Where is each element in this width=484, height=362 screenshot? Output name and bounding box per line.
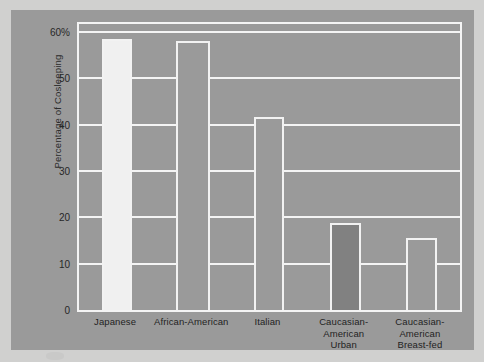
x-axis-label-line: Caucasian- (382, 316, 458, 328)
x-axis-label-line: Japanese (77, 316, 153, 328)
bar-4[interactable] (330, 223, 361, 310)
x-axis-label-line: Caucasian- (306, 316, 382, 328)
scanned-figure-page: Percentage of Cosleeping 0102030405060% … (0, 0, 484, 362)
x-axis-label-2: African-American (153, 316, 229, 328)
y-tick-label: 50 (59, 73, 70, 84)
x-axis-label-4: Caucasian-AmericanUrban (306, 316, 382, 351)
plot-top-border (77, 22, 462, 24)
x-axis-label-line: Italian (229, 316, 305, 328)
y-tick-label: 30 (59, 166, 70, 177)
x-axis-line (77, 310, 462, 312)
scan-artifact (46, 352, 64, 360)
x-axis-label-5: Caucasian-AmericanBreast-fed (382, 316, 458, 351)
y-tick-label: 0 (64, 305, 70, 316)
y-tick-label: 10 (59, 258, 70, 269)
bar-2[interactable] (176, 41, 210, 310)
x-axis-category-labels: JapaneseAfrican-AmericanItalianCaucasian… (77, 316, 462, 362)
bar-3[interactable] (254, 117, 284, 310)
bar-slot (79, 39, 155, 310)
x-axis-label-line: African-American (153, 316, 229, 328)
gridline-60 (77, 31, 462, 33)
y-tick-label: 20 (59, 212, 70, 223)
x-axis-label-line: Breast-fed (382, 339, 458, 351)
bar-slot (308, 223, 384, 310)
x-axis-label-line: American (382, 328, 458, 340)
x-axis-label-line: Urban (306, 339, 382, 351)
x-axis-label-line: American (306, 328, 382, 340)
x-axis-label-3: Italian (229, 316, 305, 328)
bar-1[interactable] (102, 39, 132, 310)
bar-slot (384, 238, 460, 310)
bar-slot (231, 117, 307, 310)
plot-right-border (460, 22, 462, 312)
chart-panel: Percentage of Cosleeping 0102030405060% … (11, 10, 474, 350)
x-axis-label-1: Japanese (77, 316, 153, 328)
plot-area: 0102030405060% (77, 22, 462, 312)
y-tick-label: 60% (50, 27, 70, 38)
plot-inner (77, 22, 462, 312)
bar-slot (155, 41, 231, 310)
y-tick-label: 40 (59, 119, 70, 130)
bar-5[interactable] (406, 238, 437, 310)
